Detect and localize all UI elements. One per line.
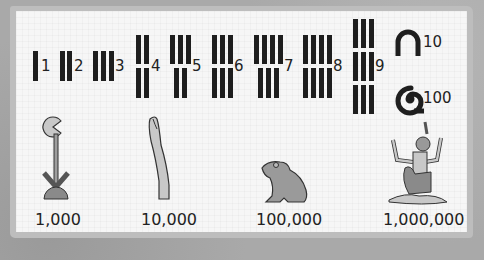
lotus-plant-icon (35, 115, 75, 207)
label-6: 6 (234, 59, 244, 74)
coil-of-rope-icon (394, 83, 426, 115)
label-1000000: 1,000,000 (383, 212, 464, 228)
label-1: 1 (41, 59, 51, 74)
label-8: 8 (333, 59, 343, 74)
kneeling-god-heh-icon (385, 120, 449, 210)
label-9: 9 (375, 59, 385, 74)
heel-bone-icon (393, 28, 423, 58)
label-10: 10 (423, 35, 442, 50)
finger-icon (145, 115, 175, 207)
label-5: 5 (192, 59, 202, 74)
frog-icon (260, 158, 310, 208)
label-1000: 1,000 (35, 212, 81, 228)
label-4: 4 (151, 59, 161, 74)
label-7: 7 (284, 59, 294, 74)
label-2: 2 (74, 59, 84, 74)
label-10000: 10,000 (141, 212, 197, 228)
label-100: 100 (423, 91, 452, 106)
label-3: 3 (115, 59, 125, 74)
label-100000: 100,000 (256, 212, 322, 228)
